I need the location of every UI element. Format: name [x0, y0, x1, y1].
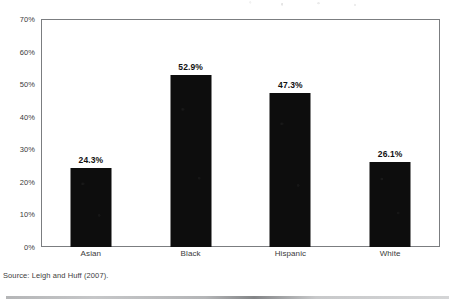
- x-axis: AsianBlackHispanicWhite: [41, 249, 440, 265]
- bar-value-label: 52.9%: [178, 62, 203, 72]
- x-axis-category-label: Asian: [41, 249, 141, 258]
- bar[interactable]: [270, 93, 311, 247]
- y-axis-tick-label: 50%: [20, 80, 35, 89]
- bar-group: 52.9%: [141, 19, 241, 247]
- bar-group: 26.1%: [340, 19, 440, 247]
- y-axis-tick-label: 70%: [20, 15, 35, 24]
- bar[interactable]: [170, 75, 211, 247]
- bar-value-label: 47.3%: [278, 80, 303, 90]
- x-axis-category-label: Black: [141, 249, 241, 258]
- bar[interactable]: [70, 168, 111, 247]
- y-axis-tick-label: 10%: [20, 210, 35, 219]
- y-axis-tick-label: 40%: [20, 112, 35, 121]
- bar-value-label: 26.1%: [378, 149, 403, 159]
- bar-value-label: 24.3%: [79, 155, 104, 165]
- y-axis-tick-label: 20%: [20, 177, 35, 186]
- y-axis: 0%10%20%30%40%50%60%70%: [0, 19, 38, 247]
- scan-artifact-bottom-rule: [6, 296, 449, 299]
- y-axis-tick-label: 30%: [20, 145, 35, 154]
- y-axis-tick-label: 60%: [20, 47, 35, 56]
- bar-group: 24.3%: [41, 19, 141, 247]
- bar-chart-figure: 0%10%20%30%40%50%60%70% 24.3%52.9%47.3%2…: [0, 0, 455, 304]
- x-axis-category-label: Hispanic: [241, 249, 341, 258]
- bar-group: 47.3%: [241, 19, 341, 247]
- bar[interactable]: [370, 162, 411, 247]
- y-axis-tick-label: 0%: [24, 243, 35, 252]
- source-note: Source: Leigh and Huff (2007).: [3, 271, 108, 280]
- x-axis-category-label: White: [340, 249, 440, 258]
- bars-layer: 24.3%52.9%47.3%26.1%: [41, 19, 440, 247]
